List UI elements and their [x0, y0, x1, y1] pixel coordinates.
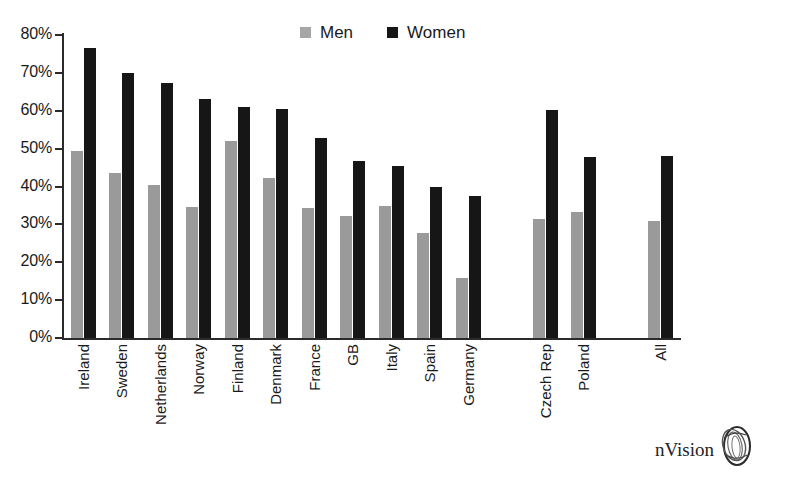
x-axis-label-text: Spain — [423, 344, 437, 382]
bar-men-norway — [186, 207, 198, 338]
x-axis-label-text: Denmark — [269, 344, 283, 405]
bar-men-all — [648, 221, 660, 338]
x-axis-label: Denmark — [276, 344, 277, 345]
x-axis-label: Norway — [199, 344, 200, 345]
x-axis-label: Finland — [237, 344, 238, 345]
nvision-logo: nVision — [655, 430, 756, 468]
x-axis-label: Ireland — [83, 344, 84, 345]
x-axis-label-text: GB — [346, 344, 360, 366]
bar-women-netherlands — [161, 83, 173, 338]
bar-men-sweden — [109, 173, 121, 338]
bar-chart: Men Women 80%70%60%50%40%30%20%10%0% Ire… — [0, 0, 803, 495]
x-axis-label: Netherlands — [160, 344, 161, 345]
bar-women-france — [315, 138, 327, 338]
bar-women-norway — [199, 99, 211, 338]
x-axis-label-text: Czech Rep — [539, 344, 553, 418]
x-axis-label-text: Netherlands — [154, 344, 168, 425]
bar-women-germany — [469, 196, 481, 338]
bar-women-spain — [430, 187, 442, 339]
bar-women-sweden — [122, 73, 134, 338]
bar-women-all — [661, 156, 673, 338]
x-axis-label-text: Norway — [192, 344, 206, 395]
bar-women-gb — [353, 161, 365, 338]
x-axis-label: Italy — [391, 344, 392, 345]
x-axis-label: All — [661, 344, 662, 345]
bar-men-gb — [340, 216, 352, 338]
bar-women-poland — [584, 157, 596, 338]
bar-men-poland — [571, 212, 583, 338]
bar-men-netherlands — [148, 185, 160, 338]
x-axis-label: Sweden — [122, 344, 123, 345]
x-axis-label: France — [314, 344, 315, 345]
bar-men-italy — [379, 206, 391, 338]
x-axis-label-text: Ireland — [77, 344, 91, 390]
x-axis-label-text: France — [308, 344, 322, 391]
x-axis-label: Germany — [468, 344, 469, 345]
bar-women-czech-rep — [546, 110, 558, 338]
x-axis-label: Czech Rep — [545, 344, 546, 345]
bar-men-spain — [417, 233, 429, 338]
x-axis-label-text: All — [654, 344, 668, 361]
bar-women-denmark — [276, 109, 288, 338]
bar-women-italy — [392, 166, 404, 338]
x-axis-label: Spain — [430, 344, 431, 345]
plot-area — [0, 0, 803, 495]
bar-men-finland — [225, 141, 237, 338]
bar-men-denmark — [263, 178, 275, 338]
nvision-swirl-icon — [716, 424, 756, 468]
bar-men-germany — [456, 278, 468, 338]
x-axis-label: Poland — [584, 344, 585, 345]
x-axis-label-text: Finland — [231, 344, 245, 393]
bar-men-france — [302, 208, 314, 338]
bar-women-finland — [238, 107, 250, 338]
x-axis-label-text: Italy — [385, 344, 399, 372]
x-axis-label-text: Poland — [577, 344, 591, 391]
x-axis-label: GB — [353, 344, 354, 345]
x-axis-label-text: Germany — [462, 344, 476, 406]
bar-men-czech-rep — [533, 219, 545, 338]
x-axis-label-text: Sweden — [115, 344, 129, 398]
bar-women-ireland — [84, 48, 96, 338]
bar-men-ireland — [71, 151, 83, 338]
logo-text: nVision — [655, 440, 714, 459]
